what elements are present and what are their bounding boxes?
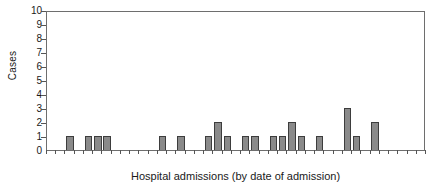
x-tick-mark-3 [74,150,75,154]
epidemic-curve-chart: Cases 012345678910 Hospital admissions (… [0,0,443,194]
y-tick-mark-3 [41,109,46,110]
x-tick-mark-5 [92,150,93,154]
x-tick-mark-29 [314,150,315,154]
x-tick-mark-16 [194,150,195,154]
x-tick-mark-24 [268,150,269,154]
bar [371,122,378,150]
y-tick-mark-10 [41,11,46,12]
x-tick-mark-25 [277,150,278,154]
bar [66,136,73,150]
x-tick-mark-6 [101,150,102,154]
bar [316,136,323,150]
y-tick-label-1: 1 [18,132,42,142]
x-tick-mark-15 [185,150,186,154]
bar [344,108,351,150]
y-axis-tick-labels: 012345678910 [18,11,42,151]
bar [224,136,231,150]
bar [205,136,212,150]
plot-area [46,11,425,151]
x-tick-mark-37 [388,150,389,154]
x-tick-mark-14 [175,150,176,154]
y-tick-label-9: 9 [18,20,42,30]
bar [298,136,305,150]
y-tick-label-4: 4 [18,90,42,100]
x-tick-mark-30 [323,150,324,154]
x-tick-mark-26 [286,150,287,154]
x-tick-mark-28 [305,150,306,154]
bar [214,122,221,150]
bar [270,136,277,150]
y-tick-mark-7 [41,53,46,54]
bar [251,136,258,150]
x-tick-mark-35 [370,150,371,154]
x-tick-mark-31 [333,150,334,154]
bar [288,122,295,150]
y-tick-mark-9 [41,25,46,26]
x-tick-mark-2 [64,150,65,154]
y-tick-mark-4 [41,95,46,96]
bar [159,136,166,150]
x-tick-mark-34 [360,150,361,154]
x-tick-mark-23 [259,150,260,154]
bar [279,136,286,150]
x-tick-mark-38 [397,150,398,154]
x-tick-mark-11 [148,150,149,154]
x-tick-mark-9 [129,150,130,154]
x-tick-mark-22 [249,150,250,154]
x-tick-mark-8 [120,150,121,154]
x-tick-mark-36 [379,150,380,154]
x-tick-mark-21 [240,150,241,154]
y-tick-label-0: 0 [18,146,42,156]
bar [242,136,249,150]
x-tick-mark-17 [203,150,204,154]
bar [94,136,101,150]
y-tick-label-6: 6 [18,62,42,72]
y-tick-mark-1 [41,137,46,138]
y-tick-mark-6 [41,67,46,68]
x-tick-mark-27 [296,150,297,154]
x-tick-mark-33 [351,150,352,154]
x-tick-mark-40 [416,150,417,154]
x-tick-mark-39 [407,150,408,154]
x-tick-mark-18 [212,150,213,154]
x-tick-mark-19 [222,150,223,154]
y-axis-title: Cases [7,36,18,96]
x-tick-mark-12 [157,150,158,154]
bar [103,136,110,150]
x-tick-mark-32 [342,150,343,154]
x-tick-mark-4 [83,150,84,154]
y-tick-label-3: 3 [18,104,42,114]
x-axis-title: Hospital admissions (by date of admissio… [46,170,425,182]
y-tick-label-5: 5 [18,76,42,86]
bar-series [47,12,424,150]
x-tick-mark-7 [111,150,112,154]
x-tick-mark-1 [55,150,56,154]
bar [353,136,360,150]
x-tick-mark-20 [231,150,232,154]
y-tick-label-8: 8 [18,34,42,44]
y-tick-label-2: 2 [18,118,42,128]
x-tick-mark-13 [166,150,167,154]
y-tick-label-10: 10 [18,6,42,16]
y-tick-mark-8 [41,39,46,40]
x-tick-mark-0 [46,150,47,154]
bar [85,136,92,150]
y-tick-label-7: 7 [18,48,42,58]
bar [177,136,184,150]
x-axis-tick-marks [46,150,425,155]
x-tick-mark-41 [425,150,426,154]
x-tick-mark-10 [138,150,139,154]
y-tick-mark-2 [41,123,46,124]
y-tick-mark-5 [41,81,46,82]
